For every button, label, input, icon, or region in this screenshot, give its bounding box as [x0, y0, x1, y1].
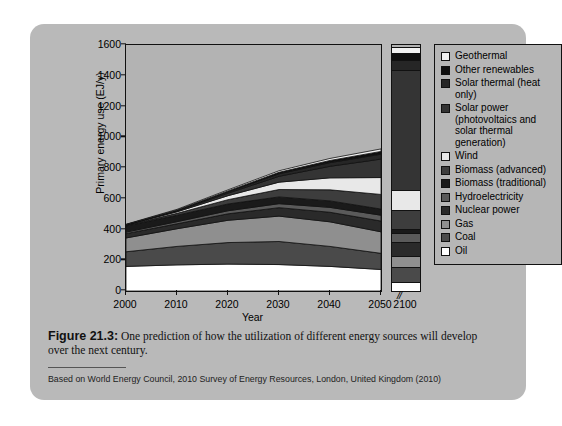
figure-caption: Figure 21.3: One prediction of how the u… — [48, 329, 488, 385]
legend-item: Oil — [440, 245, 557, 257]
x-axis-tick-mark — [125, 290, 126, 295]
x-axis-tick-label: 2050 — [368, 298, 391, 310]
legend-label: Hydroelectricity — [455, 191, 523, 203]
x-axis-tick-label-2100: 2100 — [393, 298, 416, 310]
legend-swatch-icon — [441, 152, 450, 161]
area-band — [126, 264, 381, 291]
legend-swatch-icon — [441, 104, 450, 113]
bar-segment — [392, 256, 420, 267]
x-axis-tick-label: 2000 — [113, 298, 136, 310]
x-axis-tick-mark — [278, 290, 279, 295]
bar-segment — [392, 70, 420, 190]
x-axis-tick-mark — [227, 290, 228, 295]
y-axis-tick-label: 1000 — [98, 130, 121, 142]
legend-swatch-icon — [441, 166, 450, 175]
legend-swatch-icon — [441, 79, 450, 88]
x-axis-tick-label: 2040 — [317, 298, 340, 310]
x-axis-tick-mark — [176, 290, 177, 295]
bar-segment — [392, 53, 420, 59]
bar-segment — [392, 60, 420, 71]
legend-item: Gas — [440, 218, 557, 230]
bar-2100 — [391, 44, 421, 292]
chart-legend: GeothermalOther renewablesSolar thermal … — [434, 44, 562, 265]
legend-label: Biomass (advanced) — [455, 164, 546, 176]
bar-segment — [392, 190, 420, 210]
legend-label: Solar thermal (heat only) — [455, 77, 557, 100]
legend-swatch-icon — [441, 52, 450, 61]
stacked-area-series — [126, 45, 381, 291]
legend-item: Biomass (traditional) — [440, 177, 557, 189]
legend-item: Biomass (advanced) — [440, 164, 557, 176]
legend-label: Coal — [455, 231, 476, 243]
legend-swatch-icon — [441, 247, 450, 256]
x-axis-tick-label: 2020 — [215, 298, 238, 310]
bar-segment — [392, 210, 420, 228]
bar-segment — [392, 267, 420, 282]
plot-area — [125, 44, 382, 292]
legend-swatch-icon — [441, 193, 450, 202]
legend-item: Nuclear power — [440, 204, 557, 216]
bar-segment — [392, 47, 420, 54]
caption-text: Figure 21.3: One prediction of how the u… — [48, 329, 488, 357]
legend-swatch-icon — [441, 220, 450, 229]
y-axis-tick-label: 1600 — [98, 38, 121, 50]
figure-card: Primary energy use (EJ/y) 02004006008001… — [30, 24, 526, 400]
legend-item: Hydroelectricity — [440, 191, 557, 203]
x-axis-tick-label: 2010 — [164, 298, 187, 310]
y-axis-tick-label: 1200 — [98, 100, 121, 112]
legend-label: Gas — [455, 218, 473, 230]
y-axis-tick-label: 600 — [103, 192, 121, 204]
legend-label: Wind — [455, 150, 478, 162]
legend-swatch-icon — [441, 206, 450, 215]
x-axis-tick-mark — [329, 290, 330, 295]
legend-item: Geothermal — [440, 50, 557, 62]
x-axis-title: Year — [125, 311, 380, 323]
legend-item: Other renewables — [440, 64, 557, 76]
legend-swatch-icon — [441, 233, 450, 242]
y-axis: 02004006008001000120014001600 — [78, 39, 125, 291]
legend-label: Solar power (photovoltaics and solar the… — [455, 102, 557, 148]
legend-item: Coal — [440, 231, 557, 243]
y-axis-tick-label: 400 — [103, 223, 121, 235]
legend-label: Biomass (traditional) — [455, 177, 546, 189]
bar-segment — [392, 242, 420, 257]
energy-projection-chart: Primary energy use (EJ/y) 02004006008001… — [78, 39, 508, 319]
x-axis-tick-mark — [380, 290, 381, 295]
bar-segment — [392, 233, 420, 241]
legend-label: Geothermal — [455, 50, 507, 62]
y-axis-tick-label: 200 — [103, 253, 121, 265]
y-axis-tick-label: 1400 — [98, 69, 121, 81]
legend-swatch-icon — [441, 66, 450, 75]
y-axis-tick-label: 800 — [103, 161, 121, 173]
legend-label: Oil — [455, 245, 467, 257]
legend-swatch-icon — [441, 179, 450, 188]
caption-divider — [48, 367, 126, 368]
legend-item: Wind — [440, 150, 557, 162]
bar-segment — [392, 229, 420, 234]
legend-label: Nuclear power — [455, 204, 519, 216]
legend-label: Other renewables — [455, 64, 534, 76]
x-axis-tick-label: 2030 — [266, 298, 289, 310]
caption-label: Figure 21.3: — [48, 329, 118, 343]
source-note: Based on World Energy Council, 2010 Surv… — [48, 374, 488, 385]
legend-item: Solar power (photovoltaics and solar the… — [440, 102, 557, 148]
legend-item: Solar thermal (heat only) — [440, 77, 557, 100]
